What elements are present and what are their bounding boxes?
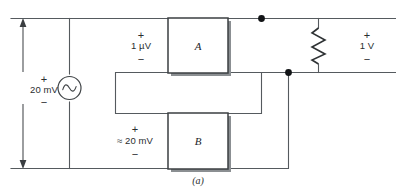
- input-b-plus-sign: +: [132, 124, 138, 135]
- block-a-letter: A: [195, 40, 202, 51]
- block-b-output-wires: [228, 73, 289, 169]
- input-a-minus-sign: −: [138, 54, 144, 65]
- input-b-voltage-label: ≈ 20 mV: [117, 136, 153, 146]
- source-minus-sign: −: [41, 97, 47, 108]
- output-bus-wires: [262, 19, 396, 73]
- interstage-wire-a-to-b: [116, 73, 169, 114]
- source-voltage-dimension-arrow: [20, 18, 27, 169]
- block-a-output-wires: [228, 19, 289, 73]
- input-a-voltage-label: 1 µV: [131, 41, 151, 51]
- input-b-minus-sign: −: [132, 149, 138, 160]
- junction-dot-top: [258, 15, 265, 22]
- block-b-letter: B: [195, 136, 202, 147]
- figure-caption-a: (a): [192, 176, 204, 186]
- source-voltage-label: 20 mV: [30, 85, 58, 95]
- circuit-figure: + 20 mV − + 1 µV − + ≈ 20 mV − + 1 V − A…: [0, 0, 396, 196]
- output-voltage-label: 1 V: [360, 41, 375, 51]
- junction-dot-bottom: [285, 69, 292, 76]
- circuit-schematic: [0, 0, 396, 196]
- output-minus-sign: −: [364, 54, 370, 65]
- load-resistor: [312, 19, 325, 73]
- ac-source-sine-icon: [58, 77, 81, 100]
